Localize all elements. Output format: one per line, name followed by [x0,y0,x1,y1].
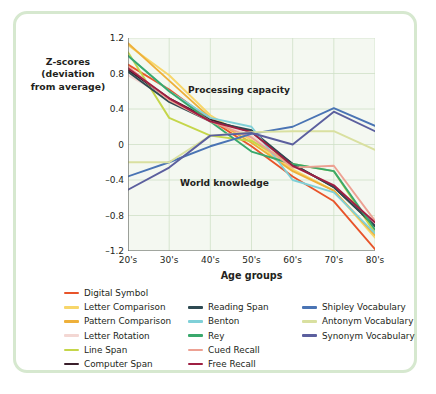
x-axis-title: Age groups [128,270,375,281]
y-axis-tick-labels: 1.20.80.40–0.4–0.8–1.2 [74,38,124,251]
legend-item[interactable]: Rey [188,329,302,343]
legend-item-label: Pattern Comparison [84,316,171,326]
legend-item-label: Reading Span [208,302,269,312]
chart-area: Z-scores (deviation from average) 1.20.8… [16,14,420,376]
legend-color-swatch [64,306,79,309]
legend-column-1: Digital SymbolLetter ComparisonPattern C… [64,286,188,371]
legend-item-label: Free Recall [208,359,256,369]
y-axis-tick: 0 [80,140,124,150]
legend-item[interactable]: Pattern Comparison [64,314,188,328]
legend-item[interactable]: Antonym Vocabulary [302,314,412,328]
legend-item-label: Rey [208,331,224,341]
legend-color-swatch [188,320,203,323]
legend-item-label: Letter Rotation [84,331,150,341]
legend-item[interactable]: Synonym Vocabulary [302,329,412,343]
legend-item-label: Cued Recall [208,345,260,355]
y-axis-tick: –0.8 [80,211,124,221]
legend-item[interactable]: Shipley Vocabulary [302,300,412,314]
legend-item[interactable]: Line Span [64,343,188,357]
legend-item-label: Benton [208,316,239,326]
x-axis-tick: 70's [314,255,354,265]
legend-item-label: Computer Span [84,359,153,369]
legend-color-swatch [64,349,79,352]
legend-color-swatch [302,320,317,323]
legend-item-label: Synonym Vocabulary [322,331,415,341]
legend-item[interactable]: Benton [188,314,302,328]
legend-color-swatch [188,349,203,352]
legend-item[interactable]: Letter Rotation [64,329,188,343]
legend-color-swatch [302,334,317,337]
x-axis-tick: 30's [149,255,189,265]
legend-color-swatch [64,320,79,323]
legend-item-label: Line Span [84,345,127,355]
x-axis-tick: 80's [355,255,395,265]
x-axis-tick: 60's [273,255,313,265]
x-axis-tick: 40's [190,255,230,265]
y-axis-tick: 0.4 [80,104,124,114]
figure-frame: Z-scores (deviation from average) 1.20.8… [13,11,417,373]
legend-item[interactable]: Reading Span [188,300,302,314]
annotation-processing-capacity: Processing capacity [188,85,290,95]
annotation-world-knowledge: World knowledge [180,178,269,188]
legend-item[interactable]: Cued Recall [188,343,302,357]
legend-item[interactable]: Computer Span [64,357,188,371]
legend-color-swatch [302,306,317,309]
legend-color-swatch [188,363,203,366]
legend-color-swatch [64,363,79,366]
legend-color-swatch [64,334,79,337]
legend-column-3: Shipley VocabularyAntonym VocabularySyno… [302,286,412,343]
x-axis-tick: 20's [108,255,148,265]
legend-item[interactable]: Free Recall [188,357,302,371]
plot-area [128,38,375,251]
legend-color-swatch [188,334,203,337]
legend: Digital SymbolLetter ComparisonPattern C… [64,286,412,366]
legend-item-label: Antonym Vocabulary [322,316,413,326]
y-axis-tick: –0.4 [80,175,124,185]
legend-item[interactable]: Letter Comparison [64,300,188,314]
x-axis-tick-labels: 20's30's40's50's60's70's80's [128,255,375,269]
legend-item[interactable]: Digital Symbol [64,286,188,300]
legend-item-label: Letter Comparison [84,302,166,312]
legend-color-swatch [188,306,203,309]
y-axis-tick: 0.8 [80,69,124,79]
line-chart-svg [128,38,375,251]
legend-color-swatch [64,292,79,295]
legend-item-label: Shipley Vocabulary [322,302,406,312]
y-axis-tick: 1.2 [80,33,124,43]
x-axis-tick: 50's [232,255,272,265]
legend-column-2: Reading SpanBentonReyCued RecallFree Rec… [188,286,302,371]
legend-item-label: Digital Symbol [84,288,148,298]
